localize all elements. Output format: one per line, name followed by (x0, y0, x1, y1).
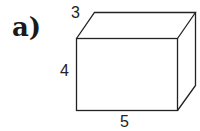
height-label: 4 (60, 63, 69, 79)
rectangular-prism-drawing (0, 0, 200, 131)
front-face (77, 39, 178, 111)
depth-label: 3 (71, 5, 80, 21)
side-face-edges (178, 13, 196, 111)
width-label: 5 (120, 114, 129, 130)
top-face-edges (77, 13, 196, 39)
